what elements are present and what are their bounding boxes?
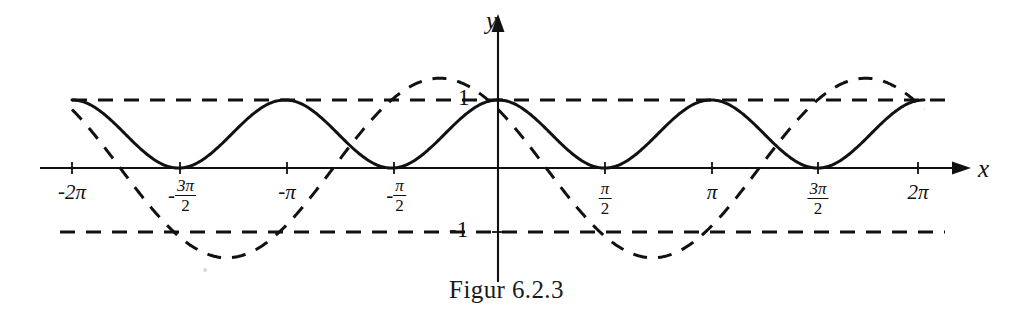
value-text: 2π xyxy=(907,180,928,204)
y-tick-label-minus-1: -1 xyxy=(449,218,468,241)
value-text: π xyxy=(707,180,718,204)
x-axis-label: x xyxy=(978,156,989,181)
numerator: π xyxy=(393,177,406,196)
denominator: 2 xyxy=(599,199,612,217)
x-tick-label-minus-3pi-over-2: -3π2 xyxy=(168,178,196,216)
x-tick-label-pi-over-2: π2 xyxy=(599,178,612,219)
y-axis-label: y xyxy=(486,8,497,33)
x-tick-label-pi: π xyxy=(707,182,718,203)
numerator: 3π xyxy=(807,180,828,199)
figure-caption: Figur 6.2.3 xyxy=(0,276,1013,304)
x-axis-arrow-icon xyxy=(952,162,971,175)
fraction: 3π2 xyxy=(807,180,828,218)
value-text: π xyxy=(285,180,296,204)
fraction: π2 xyxy=(599,180,612,218)
minus-sign: - xyxy=(278,179,285,203)
x-tick-label-minus-pi: -π xyxy=(278,182,296,203)
denominator: 2 xyxy=(179,196,192,214)
x-tick-label-2pi: 2π xyxy=(907,182,928,203)
minus-sign: - xyxy=(386,185,393,206)
value-text: 2π xyxy=(65,180,86,204)
x-tick-label-3pi-over-2: 3π2 xyxy=(807,178,828,219)
numerator: π xyxy=(599,180,612,199)
figure-container: x y 1 -1 -2π -π π 2π -3π2 -π2 π2 3π2 xyxy=(0,0,1013,322)
scan-speck xyxy=(203,268,207,272)
denominator: 2 xyxy=(393,196,406,214)
denominator: 2 xyxy=(812,199,825,217)
fraction: π2 xyxy=(393,177,406,215)
numerator: 3π xyxy=(175,177,196,196)
minus-sign: - xyxy=(168,185,175,206)
y-tick-label-1: 1 xyxy=(458,86,470,109)
plot-area xyxy=(0,0,1013,322)
x-tick-label-minus-2pi: -2π xyxy=(58,182,86,203)
fraction: 3π2 xyxy=(175,177,196,215)
minus-sign: - xyxy=(58,179,65,203)
x-tick-label-minus-pi-over-2: -π2 xyxy=(386,178,406,216)
